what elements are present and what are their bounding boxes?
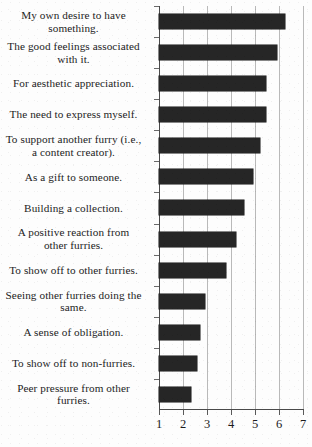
category-label-line: As a gift to someone. bbox=[0, 171, 147, 184]
value-axis-tick-label: 3 bbox=[197, 417, 217, 431]
category-label: A sense of obligation. bbox=[0, 326, 147, 339]
category-label: The good feelings associatedwith it. bbox=[0, 40, 147, 65]
category-label: For aesthetic appreciation. bbox=[0, 77, 147, 90]
bar-row bbox=[159, 348, 304, 379]
bar bbox=[159, 356, 197, 371]
bar bbox=[159, 294, 205, 309]
bar-row bbox=[159, 192, 304, 223]
category-label-line: To show off to other furries. bbox=[0, 264, 147, 277]
value-axis-tick-mark bbox=[255, 410, 256, 415]
category-label-line: same. bbox=[0, 301, 147, 314]
category-label: A positive reaction fromother furries. bbox=[0, 226, 147, 251]
bar bbox=[159, 232, 236, 247]
category-label: As a gift to someone. bbox=[0, 171, 147, 184]
category-label: Seeing other furries doing thesame. bbox=[0, 289, 147, 314]
category-label-line: To show off to non-furries. bbox=[0, 357, 147, 370]
bar-row bbox=[159, 286, 304, 317]
bar-row bbox=[159, 37, 304, 68]
category-label-line: with it. bbox=[0, 53, 147, 66]
bar-row bbox=[159, 99, 304, 130]
bar bbox=[159, 200, 244, 215]
value-axis-tick-mark bbox=[183, 410, 184, 415]
bar bbox=[159, 387, 191, 402]
bar-row bbox=[159, 379, 304, 410]
bar bbox=[159, 169, 253, 184]
category-label-line: Building a collection. bbox=[0, 202, 147, 215]
category-label-line: a content creator). bbox=[0, 146, 147, 159]
bar-row bbox=[159, 161, 304, 192]
value-axis-tick-mark bbox=[303, 410, 304, 415]
value-axis-tick-mark bbox=[231, 410, 232, 415]
bar bbox=[159, 107, 266, 122]
category-label: To show off to non-furries. bbox=[0, 357, 147, 370]
value-axis-tick-label: 2 bbox=[173, 417, 193, 431]
category-axis-labels: My own desire to havesomething.The good … bbox=[0, 6, 154, 410]
category-label: Building a collection. bbox=[0, 202, 147, 215]
value-axis-tick-label: 7 bbox=[293, 417, 312, 431]
bar bbox=[159, 263, 226, 278]
bar-row bbox=[159, 255, 304, 286]
bar-row bbox=[159, 68, 304, 99]
category-label-line: Seeing other furries doing the bbox=[0, 289, 147, 302]
value-axis-tick-label: 6 bbox=[269, 417, 289, 431]
value-axis-tick-mark bbox=[159, 410, 160, 415]
bar-row bbox=[159, 224, 304, 255]
category-label: The need to express myself. bbox=[0, 108, 147, 121]
category-label-line: furries. bbox=[0, 394, 147, 407]
category-label-line: something. bbox=[0, 22, 147, 35]
value-axis-tick-mark bbox=[207, 410, 208, 415]
bar bbox=[159, 138, 260, 153]
value-axis-tick-label: 1 bbox=[149, 417, 169, 431]
bar bbox=[159, 14, 285, 29]
category-label: To show off to other furries. bbox=[0, 264, 147, 277]
value-axis-ticks: 1234567 bbox=[0, 410, 312, 440]
bar bbox=[159, 45, 277, 60]
category-label-line: A sense of obligation. bbox=[0, 326, 147, 339]
category-label: To support another furry (i.e.,a content… bbox=[0, 133, 147, 158]
bar-rows bbox=[159, 6, 304, 410]
category-label-line: The need to express myself. bbox=[0, 108, 147, 121]
bar-row bbox=[159, 317, 304, 348]
category-label-line: My own desire to have bbox=[0, 9, 147, 22]
category-label-line: The good feelings associated bbox=[0, 40, 147, 53]
value-axis-tick-label: 4 bbox=[221, 417, 241, 431]
category-label-line: Peer pressure from other bbox=[0, 382, 147, 395]
category-label-line: To support another furry (i.e., bbox=[0, 133, 147, 146]
bar bbox=[159, 325, 200, 340]
category-label: Peer pressure from otherfurries. bbox=[0, 382, 147, 407]
value-axis-tick-mark bbox=[279, 410, 280, 415]
bar bbox=[159, 76, 266, 91]
plot-area bbox=[159, 6, 304, 410]
category-label-line: other furries. bbox=[0, 239, 147, 252]
category-label: My own desire to havesomething. bbox=[0, 9, 147, 34]
category-label-line: For aesthetic appreciation. bbox=[0, 77, 147, 90]
bar-row bbox=[159, 6, 304, 37]
bar-row bbox=[159, 130, 304, 161]
category-label-line: A positive reaction from bbox=[0, 226, 147, 239]
value-axis-tick-label: 5 bbox=[245, 417, 265, 431]
horizontal-bar-chart: My own desire to havesomething.The good … bbox=[0, 0, 312, 447]
